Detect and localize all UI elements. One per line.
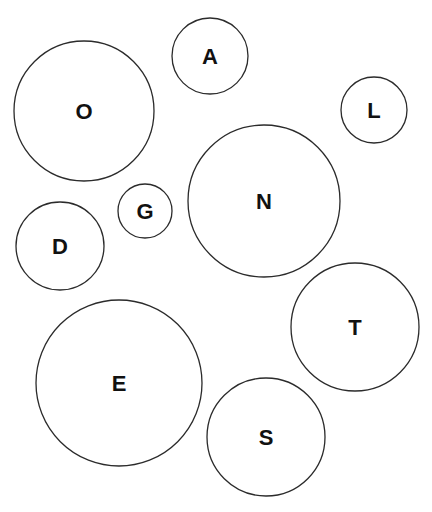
bubble-o: O — [14, 41, 154, 181]
bubble-a: A — [172, 18, 248, 94]
bubble-letter: L — [367, 98, 380, 123]
bubble-letter: A — [202, 44, 218, 69]
bubble-g: G — [118, 184, 172, 238]
bubble-letter: G — [136, 199, 153, 224]
bubble-d: D — [16, 202, 104, 290]
bubble-l: L — [341, 77, 407, 143]
bubble-t: T — [291, 263, 419, 391]
bubble-letter: S — [259, 425, 274, 450]
bubble-letter: T — [348, 315, 362, 340]
bubble-diagram: OALGNDTES — [0, 0, 432, 512]
bubble-letter: N — [256, 189, 272, 214]
bubble-n: N — [188, 125, 340, 277]
bubble-s: S — [207, 378, 325, 496]
bubble-letter: E — [112, 371, 127, 396]
bubble-e: E — [36, 300, 202, 466]
bubble-letter: O — [75, 99, 92, 124]
bubble-letter: D — [52, 234, 68, 259]
